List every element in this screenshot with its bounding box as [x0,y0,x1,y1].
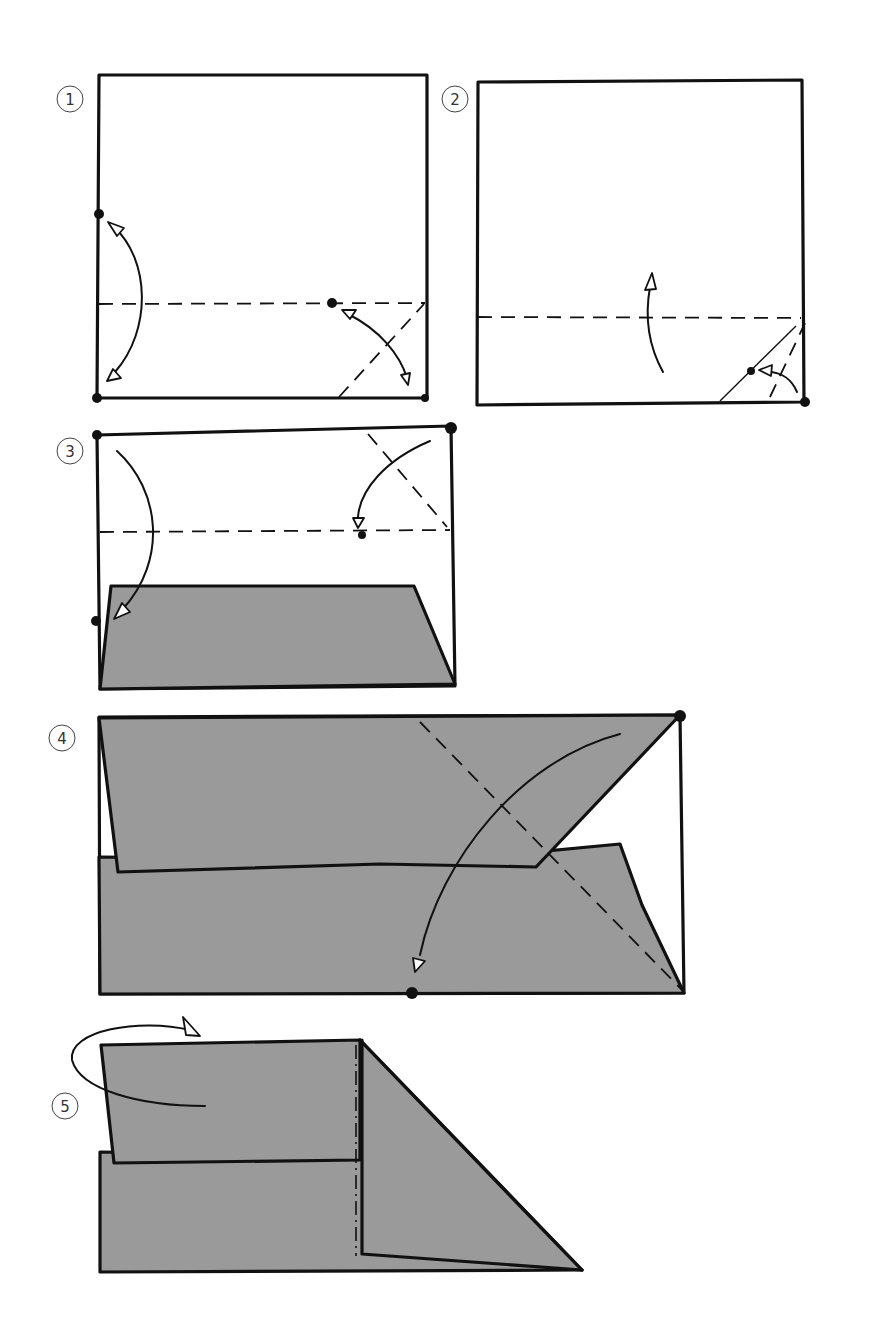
origami-diagram: 1 2 [0,0,869,1334]
step-3-panel: 3 [57,422,457,689]
step-4-point-bottom-target [406,987,418,999]
step-4-number: 4 [57,730,67,748]
step-2-point-corner [800,397,810,407]
step-4-badge: 4 [49,725,75,751]
step-3-diagonal-valley-crease [368,434,447,527]
step-1-point-left-edge [94,209,104,219]
step-2-corner-fold-arrow [759,365,797,392]
step-2-diagonal-crease-line [720,326,796,401]
step-1-horizontal-valley-crease [99,303,425,304]
step-2-point-target [747,367,755,375]
step-2-panel: 2 [442,80,810,407]
step-2-horizontal-valley-crease [478,317,801,318]
arrowhead-icon [401,373,410,385]
step-4-point-top-right [674,710,686,722]
step-3-number: 3 [65,443,75,461]
arrowhead-icon [183,1017,200,1036]
step-1-panel: 1 [57,75,429,403]
step-1-number: 1 [65,91,75,109]
step-5-badge: 5 [52,1093,78,1119]
step-1-fold-unfold-arrow-left [107,222,142,381]
step-2-paper-square [477,80,804,405]
step-3-point-crease [358,531,366,539]
step-1-paper-square [97,75,427,398]
step-1-fold-unfold-arrow-right [342,310,410,385]
step-2-fold-up-arrow [645,273,663,372]
arrowhead-icon [353,518,364,528]
arrowhead-icon [759,365,772,376]
arrowhead-icon [645,273,656,290]
step-3-fold-down-arrow-right [353,441,430,528]
step-3-point-top-right [445,422,457,434]
step-3-folded-flap-back [100,586,455,689]
step-5-number: 5 [60,1098,70,1116]
step-5-top-flap [101,1040,360,1163]
step-2-number: 2 [450,91,460,109]
arrowhead-icon [107,369,121,381]
step-1-point-bottom-left [92,393,102,403]
step-1-point-crease [327,298,337,308]
step-2-badge: 2 [442,86,468,112]
step-1-badge: 1 [57,86,83,112]
step-1-point-bottom-right [421,394,429,402]
step-3-point-left-edge [91,616,101,626]
step-5-panel: 5 [52,1017,582,1272]
step-3-point-top-left [92,430,102,440]
step-3-badge: 3 [57,438,83,464]
step-4-panel: 4 [49,710,686,999]
